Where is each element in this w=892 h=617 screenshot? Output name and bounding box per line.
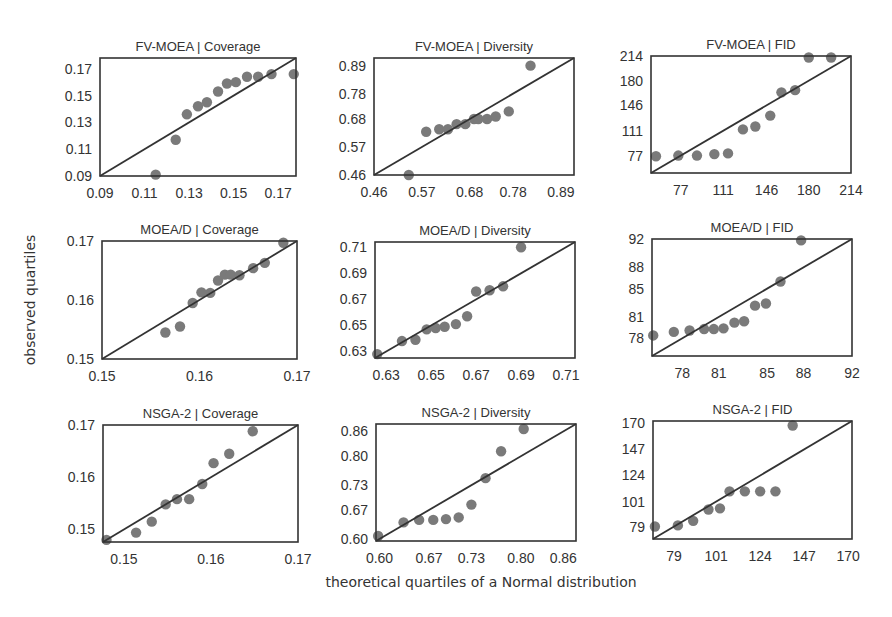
data-point (750, 121, 760, 131)
y-tick-label: 78 (628, 330, 644, 346)
subplot: FV-MOEA | FID771111461802147711114618021… (620, 37, 863, 198)
x-tick-label: 0.11 (131, 185, 157, 201)
y-tick-label: 0.67 (341, 502, 368, 518)
data-point (755, 486, 765, 496)
y-tick-label: 0.67 (340, 291, 367, 307)
x-tick-label: 0.71 (552, 367, 579, 383)
subplot: NSGA-2 | Diversity0.600.670.730.800.860.… (341, 405, 577, 566)
data-point (451, 319, 461, 329)
data-point (729, 317, 739, 327)
y-tick-label: 77 (627, 148, 643, 164)
y-tick-label: 0.78 (339, 86, 366, 102)
data-point (516, 242, 526, 252)
data-point (709, 324, 719, 334)
y-tick-label: 0.17 (67, 233, 94, 249)
y-tick-label: 214 (620, 48, 644, 64)
subplot: MOEA/D | Coverage0.150.160.170.150.160.1… (67, 222, 311, 384)
data-point (770, 486, 780, 496)
y-tick-label: 0.57 (339, 139, 366, 155)
y-axis-label: observed quartiles (22, 235, 38, 366)
y-tick-label: 0.65 (340, 317, 367, 333)
y-tick-label: 0.17 (68, 417, 95, 433)
data-point (184, 494, 194, 504)
data-point (761, 298, 771, 308)
subplot: NSGA-2 | Coverage0.150.160.170.150.160.1… (68, 406, 312, 567)
y-tick-label: 170 (622, 415, 646, 431)
x-tick-label: 0.17 (265, 185, 292, 201)
x-tick-label: 77 (673, 182, 689, 198)
subplot: MOEA/D | FID78818588927881858892 (628, 220, 860, 381)
x-tick-label: 180 (797, 182, 821, 198)
x-tick-label: 0.68 (456, 184, 483, 200)
y-tick-label: 0.15 (67, 351, 94, 367)
reference-line (100, 58, 296, 176)
x-tick-label: 0.69 (507, 367, 534, 383)
data-point (231, 77, 241, 87)
reference-line (376, 424, 576, 541)
y-tick-label: 0.16 (68, 469, 95, 485)
y-tick-label: 0.17 (65, 61, 92, 77)
x-tick-label: 0.17 (283, 368, 310, 384)
y-tick-label: 0.15 (65, 88, 92, 104)
data-point (289, 69, 299, 79)
reference-line (652, 239, 852, 356)
x-tick-label: 146 (755, 182, 779, 198)
subplot: FV-MOEA | Coverage0.090.110.130.150.170.… (65, 39, 299, 201)
data-point (208, 458, 218, 468)
subplot-title: NSGA-2 | Coverage (143, 406, 258, 421)
data-point (147, 516, 157, 526)
x-tick-label: 79 (666, 548, 682, 564)
data-point (796, 235, 806, 245)
data-point (160, 327, 170, 337)
x-tick-label: 0.15 (110, 551, 137, 567)
subplot-title: FV-MOEA | Coverage (136, 39, 261, 54)
data-point (224, 449, 234, 459)
x-tick-label: 0.73 (458, 550, 485, 566)
data-point (131, 527, 141, 537)
data-point (692, 150, 702, 160)
subplot-title: MOEA/D | Coverage (140, 222, 258, 237)
x-tick-label: 0.15 (88, 368, 115, 384)
y-tick-label: 147 (622, 441, 646, 457)
data-point (826, 52, 836, 62)
y-tick-label: 79 (629, 519, 645, 535)
data-point (669, 327, 679, 337)
y-tick-label: 0.15 (68, 521, 95, 537)
data-point (804, 52, 814, 62)
y-tick-label: 0.73 (341, 477, 368, 493)
y-tick-label: 0.69 (340, 265, 367, 281)
y-tick-label: 0.46 (339, 167, 366, 183)
y-tick-label: 0.71 (340, 239, 367, 255)
x-tick-label: 0.63 (373, 367, 400, 383)
subplot: NSGA-2 | FID7910112414717079101124147170 (622, 402, 860, 564)
y-tick-label: 0.16 (67, 292, 94, 308)
data-point (504, 106, 514, 116)
reference-line (651, 56, 851, 173)
reference-line (103, 425, 298, 542)
data-point (202, 97, 212, 107)
data-point (453, 512, 463, 522)
x-axis-label: theoretical quartiles of a Normal distri… (0, 574, 892, 590)
y-tick-label: 0.80 (341, 448, 368, 464)
x-tick-label: 0.78 (500, 184, 527, 200)
reference-line (653, 421, 852, 539)
x-tick-label: 0.17 (284, 551, 311, 567)
x-tick-label: 214 (839, 182, 863, 198)
x-tick-label: 111 (712, 182, 733, 198)
subplot-title: NSGA-2 | FID (713, 402, 793, 417)
data-point (491, 111, 501, 121)
subplot-title: MOEA/D | FID (711, 220, 794, 235)
data-point (462, 311, 472, 321)
data-point (650, 521, 660, 531)
x-tick-label: 81 (711, 365, 727, 381)
x-tick-label: 0.60 (366, 550, 393, 566)
x-tick-label: 170 (836, 548, 860, 564)
data-point (439, 322, 449, 332)
data-point (525, 60, 535, 70)
y-tick-label: 0.68 (339, 111, 366, 127)
data-point (715, 503, 725, 513)
x-tick-label: 0.65 (418, 367, 445, 383)
data-point (718, 323, 728, 333)
y-tick-label: 0.60 (341, 531, 368, 547)
subplot-title: NSGA-2 | Diversity (422, 405, 531, 420)
